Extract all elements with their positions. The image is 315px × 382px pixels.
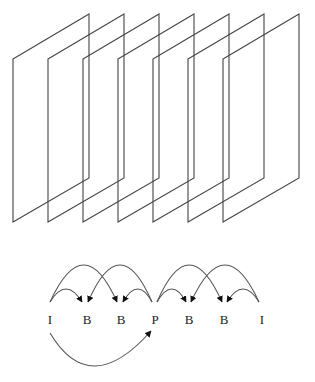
video-frame <box>118 14 194 222</box>
frame-label: B <box>117 312 126 327</box>
video-frame <box>188 14 264 222</box>
arrow-i2-to-b4 <box>227 289 259 302</box>
arrow-p-to-b2 <box>123 289 152 302</box>
arrow-p-to-b1 <box>88 265 152 302</box>
video-frame <box>223 14 299 222</box>
video-frame <box>83 14 159 222</box>
video-frames-stack <box>13 14 299 222</box>
frame-label: I <box>260 312 264 327</box>
arrow-i-to-b1 <box>50 289 82 302</box>
video-frame <box>48 14 124 222</box>
frame-label: P <box>151 312 158 327</box>
frame-label: B <box>220 312 229 327</box>
frame-label: B <box>83 312 92 327</box>
video-frame <box>13 14 89 222</box>
gop-diagram: I B B P B B I <box>0 0 315 382</box>
arrow-p-to-b3 <box>157 289 186 302</box>
frame-label: I <box>48 312 52 327</box>
video-frame <box>153 14 229 222</box>
arrow-i-to-p <box>50 331 151 366</box>
frame-label: B <box>185 312 194 327</box>
frame-type-labels: I B B P B B I <box>48 312 264 327</box>
